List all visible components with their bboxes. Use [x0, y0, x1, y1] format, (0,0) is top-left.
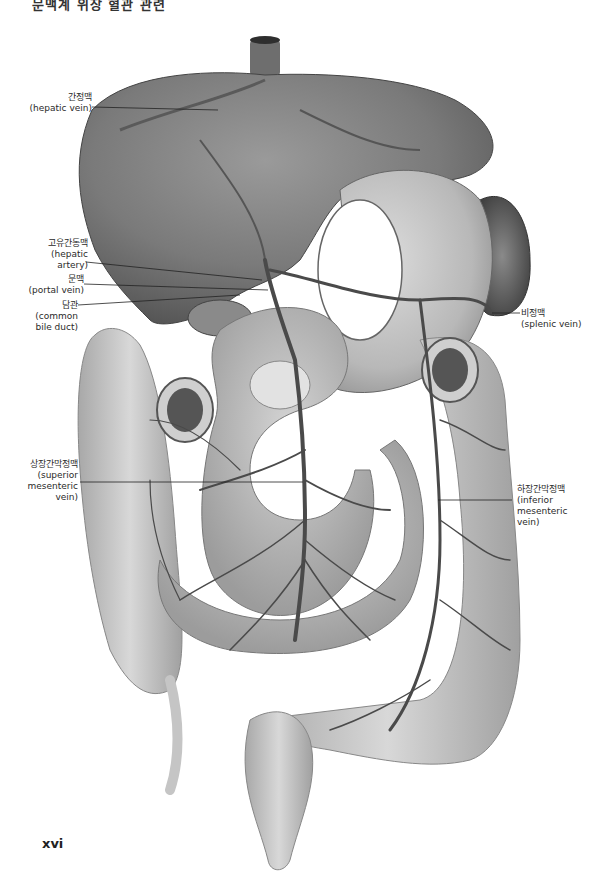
label-common-bile-duct: 담관 (common bile duct) [10, 300, 78, 333]
ascending-colon [78, 328, 182, 693]
rectum [245, 712, 313, 870]
duodenum [202, 308, 374, 616]
anatomy-illustration [0, 0, 601, 873]
label-superior-mesenteric-vein: 상장간막정맥 (superior mesenteric vein) [4, 459, 78, 503]
page-number: xvi [42, 836, 63, 851]
label-inferior-mesenteric-vein: 하장간막정맥 (inferior mesenteric vein) [517, 484, 601, 528]
inferior-vena-cava [250, 36, 280, 78]
label-splenic-vein: 비정맥 (splenic vein) [521, 308, 601, 330]
label-hepatic-artery: 고유간동맥 (hepatic artery) [20, 238, 88, 271]
label-portal-vein: 문맥 (portal vein) [10, 274, 84, 296]
label-hepatic-vein: 간정맥 (hepatic vein) [20, 92, 92, 114]
